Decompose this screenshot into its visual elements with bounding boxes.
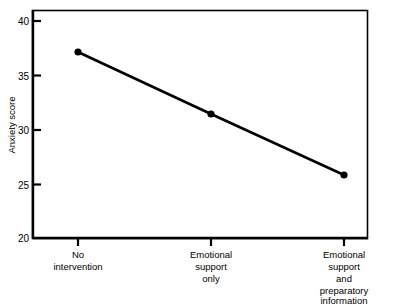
y-tick-label-25: 25: [18, 180, 30, 191]
cat-2-line-1: support: [328, 261, 360, 272]
y-tick-label-35: 35: [18, 71, 30, 82]
cat-1-line-2: only: [202, 273, 220, 284]
data-point-0: [74, 48, 81, 55]
cat-1-line-1: support: [195, 261, 227, 272]
y-axis-title: Anxiety score: [6, 96, 17, 153]
line-chart: 40 35 30 25 20 Anxiety score No interven…: [0, 0, 396, 305]
x-category-label-2: Emotional support and preparatory inform…: [320, 249, 369, 305]
x-category-label-1: Emotional support only: [190, 249, 232, 284]
figure-container: 40 35 30 25 20 Anxiety score No interven…: [0, 0, 396, 305]
plot-frame: [33, 11, 368, 239]
cat-0-line-1: intervention: [53, 261, 102, 272]
cat-2-line-0: Emotional: [323, 249, 365, 260]
y-tick-label-30: 30: [18, 125, 30, 136]
cat-1-line-0: Emotional: [190, 249, 232, 260]
cat-0-line-0: No: [72, 249, 84, 260]
x-category-label-0: No intervention: [53, 249, 102, 272]
y-tick-label-40: 40: [18, 16, 30, 27]
cat-2-line-2: and: [336, 273, 352, 284]
y-tick-label-20: 20: [18, 233, 30, 244]
cat-2-line-4: information: [321, 295, 368, 305]
data-point-1: [207, 110, 214, 117]
data-point-2: [340, 171, 347, 178]
